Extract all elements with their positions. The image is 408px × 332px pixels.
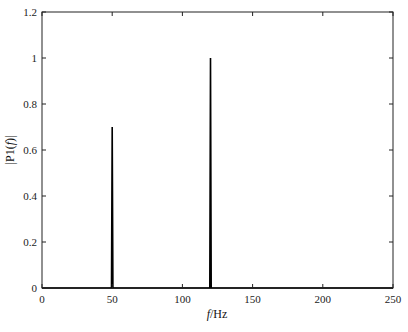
x-tick-label: 0 bbox=[39, 293, 45, 305]
spectrum-chart: 050100150200250 00.20.40.60.811.2 f/Hz |… bbox=[0, 0, 408, 332]
x-tick-label: 150 bbox=[244, 293, 261, 305]
y-tick-label: 0.2 bbox=[23, 236, 37, 248]
y-tick-label: 0.4 bbox=[23, 190, 37, 202]
x-tick-label: 250 bbox=[385, 293, 402, 305]
x-axis-label: f/Hz bbox=[207, 307, 228, 321]
x-tick-label: 100 bbox=[174, 293, 191, 305]
plot-area bbox=[42, 12, 393, 288]
axes-frame bbox=[42, 12, 393, 288]
x-axis-ticks: 050100150200250 bbox=[39, 12, 402, 305]
series-line bbox=[42, 58, 393, 288]
y-tick-label: 0.6 bbox=[23, 144, 37, 156]
y-axis-ticks: 00.20.40.60.811.2 bbox=[23, 6, 393, 294]
x-tick-label: 200 bbox=[315, 293, 332, 305]
y-axis-label: |P1(f)| bbox=[3, 136, 17, 165]
y-tick-label: 1.2 bbox=[23, 6, 37, 18]
y-tick-label: 0.8 bbox=[23, 98, 37, 110]
y-tick-label: 1 bbox=[32, 52, 38, 64]
y-tick-label: 0 bbox=[32, 282, 38, 294]
x-tick-label: 50 bbox=[107, 293, 119, 305]
